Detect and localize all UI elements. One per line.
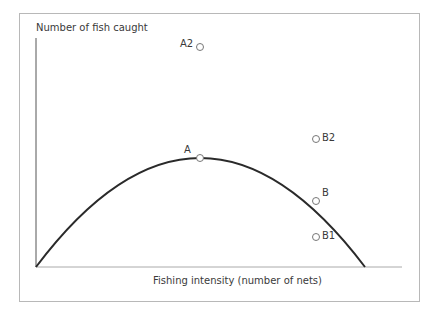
x-axis-label: Fishing intensity (number of nets)	[153, 275, 322, 287]
y-axis-label: Number of fish caught	[36, 22, 148, 34]
label-b1: B1	[322, 230, 335, 242]
point-b1	[313, 234, 320, 241]
point-a	[197, 155, 204, 162]
label-b: B	[322, 187, 329, 199]
point-a2	[197, 44, 204, 51]
point-b2	[313, 136, 320, 143]
label-b2: B2	[322, 132, 335, 144]
yield-curve	[36, 158, 365, 267]
point-b	[313, 198, 320, 205]
label-a2: A2	[180, 38, 193, 50]
diagram-canvas	[0, 0, 440, 314]
label-a: A	[184, 144, 191, 156]
